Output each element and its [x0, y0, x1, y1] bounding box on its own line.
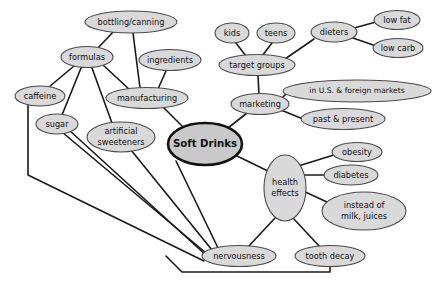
- edge-e-health-tooth: [293, 218, 320, 247]
- node-label-us-foreign-markets: in U.S. & foreign markets: [309, 86, 404, 95]
- node-label-instead-of-milk-juices: milk, juices: [341, 211, 387, 221]
- node-label-bottling-canning: bottling/canning: [98, 17, 165, 27]
- node-manufacturing[interactable]: manufacturing: [106, 88, 188, 109]
- mindmap-diagram: Soft Drinksbottling/canningformulasingre…: [0, 0, 441, 293]
- node-ingredients[interactable]: ingredients: [139, 50, 201, 71]
- node-diabetes[interactable]: diabetes: [324, 165, 378, 185]
- edge-e-soft-marketing: [228, 113, 247, 128]
- node-obesity[interactable]: obesity: [332, 143, 382, 162]
- node-sugar[interactable]: sugar: [36, 114, 78, 134]
- edge-e-formulas-sugar: [62, 68, 81, 115]
- node-label-target-groups: target groups: [229, 60, 285, 70]
- node-label-health-effects: effects: [271, 188, 299, 198]
- node-dieters[interactable]: dieters: [311, 22, 357, 42]
- edge-e-dieters-lowfat: [354, 22, 376, 28]
- edge-e-target-marketing: [258, 76, 259, 94]
- node-label-caffeine: caffeine: [24, 91, 57, 101]
- node-nervousness[interactable]: nervousness: [202, 246, 276, 267]
- node-label-marketing: marketing: [239, 99, 281, 109]
- node-label-instead-of-milk-juices: instead of: [344, 200, 386, 210]
- node-tooth-decay[interactable]: tooth decay: [295, 246, 365, 267]
- node-label-sugar: sugar: [45, 119, 69, 129]
- node-teens[interactable]: teens: [257, 23, 295, 43]
- node-label-diabetes: diabetes: [333, 170, 368, 180]
- edge-e-dieters-target: [285, 39, 314, 59]
- node-health-effects[interactable]: healtheffects: [264, 155, 306, 221]
- node-soft-drinks[interactable]: Soft Drinks: [168, 123, 242, 165]
- node-marketing[interactable]: marketing: [231, 94, 289, 115]
- node-target-groups[interactable]: target groups: [219, 55, 295, 76]
- node-artificial-sweeteners[interactable]: artificialsweeteners: [87, 122, 155, 152]
- edge-e-ingredients-manufacturing: [158, 71, 166, 89]
- edge-e-dieters-lowcarb: [353, 38, 376, 46]
- node-label-past-present: past & present: [313, 114, 374, 124]
- node-label-teens: teens: [265, 28, 288, 38]
- node-us-foreign-markets[interactable]: in U.S. & foreign markets: [283, 80, 431, 102]
- edge-e-marketing-pastpresent: [281, 110, 303, 119]
- node-label-low-fat: low fat: [383, 15, 411, 25]
- node-label-nervousness: nervousness: [213, 251, 265, 261]
- node-formulas[interactable]: formulas: [61, 47, 113, 68]
- edge-e-teens-target: [262, 43, 272, 56]
- node-label-manufacturing: manufacturing: [117, 93, 177, 103]
- node-label-soft-drinks: Soft Drinks: [173, 138, 237, 149]
- node-low-carb[interactable]: low carb: [373, 39, 423, 58]
- node-label-dieters: dieters: [320, 27, 348, 37]
- edge-e-health-obesity: [295, 154, 337, 167]
- node-bottling-canning[interactable]: bottling/canning: [85, 11, 177, 33]
- mindmap-canvas: Soft Drinksbottling/canningformulasingre…: [0, 0, 441, 293]
- edge-e-formulas-caffeine: [49, 66, 74, 87]
- node-instead-of-milk-juices[interactable]: instead ofmilk, juices: [322, 192, 406, 230]
- node-caffeine[interactable]: caffeine: [15, 86, 65, 106]
- node-label-ingredients: ingredients: [147, 55, 193, 65]
- node-label-health-effects: health: [272, 177, 298, 187]
- edge-e-soft-nervousness: [176, 161, 219, 250]
- node-label-obesity: obesity: [342, 147, 372, 157]
- edge-e-soft-health: [235, 155, 272, 173]
- node-kids[interactable]: kids: [215, 23, 249, 43]
- node-past-present[interactable]: past & present: [301, 109, 385, 130]
- node-label-kids: kids: [224, 28, 240, 38]
- edge-e-kids-target: [236, 43, 246, 56]
- edge-e-health-nervousness: [248, 218, 275, 247]
- edge-e-formulas-manufacturing: [103, 65, 130, 90]
- node-low-fat[interactable]: low fat: [374, 11, 420, 30]
- node-label-tooth-decay: tooth decay: [306, 251, 355, 261]
- node-label-formulas: formulas: [69, 52, 105, 62]
- edge-e-formulas-bottling: [98, 31, 114, 48]
- node-label-artificial-sweeteners: sweeteners: [97, 137, 144, 147]
- node-label-low-carb: low carb: [381, 43, 416, 53]
- node-label-artificial-sweeteners: artificial: [104, 126, 137, 136]
